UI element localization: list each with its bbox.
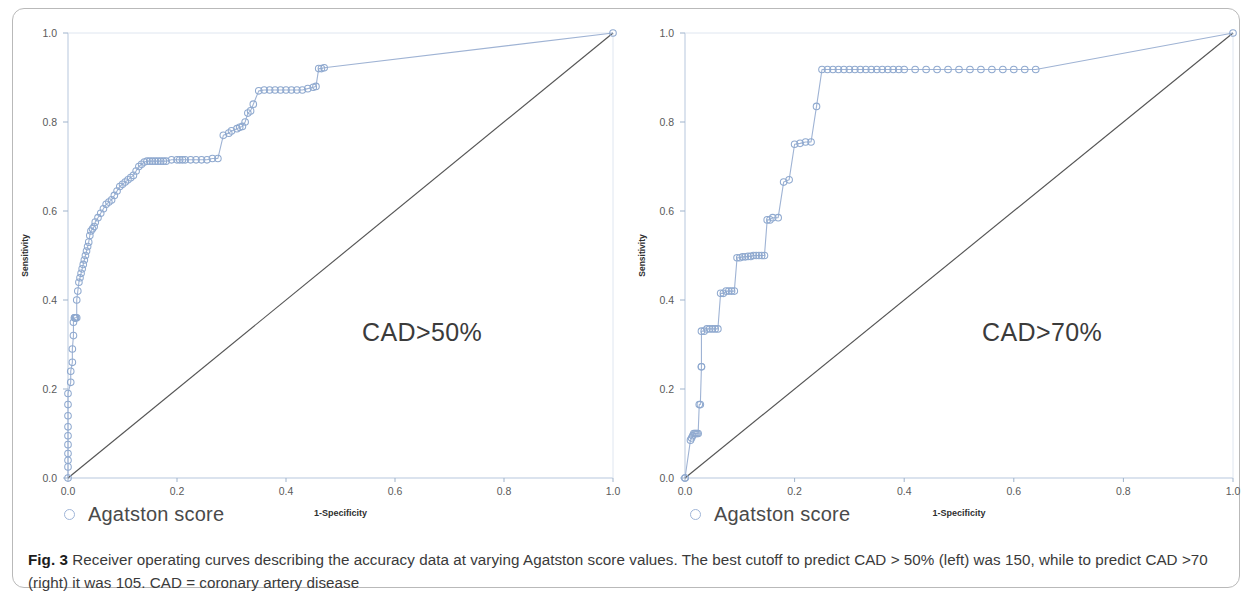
svg-text:0.8: 0.8	[1116, 485, 1131, 497]
svg-text:0.8: 0.8	[659, 116, 674, 128]
figure-root: 0.00.20.40.60.81.00.00.20.40.60.81.01-Sp…	[0, 0, 1250, 602]
svg-text:0.0: 0.0	[659, 472, 674, 484]
roc-panel-cad-70: 0.00.20.40.60.81.00.00.20.40.60.81.01-Sp…	[625, 0, 1250, 540]
svg-text:0.2: 0.2	[787, 485, 802, 497]
cad-annotation-left: CAD>50%	[362, 318, 482, 347]
legend-right: Agatston score	[690, 503, 850, 526]
svg-text:0.6: 0.6	[659, 205, 674, 217]
open-circle-icon	[64, 509, 75, 520]
roc-plot-cad-50: 0.00.20.40.60.81.00.00.20.40.60.81.01-Sp…	[0, 0, 625, 540]
svg-text:0.2: 0.2	[659, 383, 674, 395]
svg-text:Sensitivity: Sensitivity	[637, 234, 647, 277]
legend-left: Agatston score	[64, 503, 224, 526]
svg-text:0.8: 0.8	[42, 116, 57, 128]
svg-text:1.0: 1.0	[606, 485, 621, 497]
svg-text:Sensitivity: Sensitivity	[20, 234, 30, 277]
svg-text:0.2: 0.2	[42, 383, 57, 395]
svg-text:0.6: 0.6	[42, 205, 57, 217]
svg-text:0.4: 0.4	[897, 485, 912, 497]
svg-text:0.4: 0.4	[42, 294, 57, 306]
svg-text:0.0: 0.0	[61, 485, 76, 497]
figure-caption: Fig. 3 Receiver operating curves describ…	[28, 549, 1226, 594]
legend-label-right: Agatston score	[714, 503, 850, 526]
roc-panels: 0.00.20.40.60.81.00.00.20.40.60.81.01-Sp…	[0, 0, 1250, 540]
svg-text:1.0: 1.0	[42, 27, 57, 39]
roc-plot-cad-70: 0.00.20.40.60.81.00.00.20.40.60.81.01-Sp…	[625, 0, 1250, 540]
svg-text:1.0: 1.0	[1226, 485, 1241, 497]
svg-text:0.6: 0.6	[1006, 485, 1021, 497]
svg-text:0.8: 0.8	[497, 485, 512, 497]
svg-text:0.6: 0.6	[388, 485, 403, 497]
figure-caption-label: Fig. 3	[28, 551, 68, 568]
open-circle-icon	[690, 509, 701, 520]
svg-text:1-Specificity: 1-Specificity	[314, 508, 367, 518]
svg-text:1.0: 1.0	[659, 27, 674, 39]
roc-panel-cad-50: 0.00.20.40.60.81.00.00.20.40.60.81.01-Sp…	[0, 0, 625, 540]
figure-caption-text: Receiver operating curves describing the…	[28, 551, 1208, 591]
svg-text:0.2: 0.2	[170, 485, 185, 497]
svg-text:0.0: 0.0	[678, 485, 693, 497]
svg-text:0.4: 0.4	[279, 485, 294, 497]
svg-text:0.4: 0.4	[659, 294, 674, 306]
legend-label-left: Agatston score	[88, 503, 224, 526]
cad-annotation-right: CAD>70%	[982, 318, 1102, 347]
svg-text:0.0: 0.0	[42, 472, 57, 484]
svg-text:1-Specificity: 1-Specificity	[932, 508, 985, 518]
